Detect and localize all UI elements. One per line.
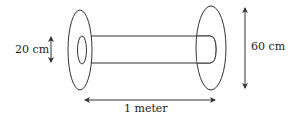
outer-diameter-label: 60 cm [251,40,286,53]
length-label: 1 meter [124,102,168,115]
left-disk-hole [78,36,87,64]
inner-diameter-label: 20 cm [15,43,50,56]
spool-diagram: 20 cm 60 cm 1 meter [0,0,299,120]
